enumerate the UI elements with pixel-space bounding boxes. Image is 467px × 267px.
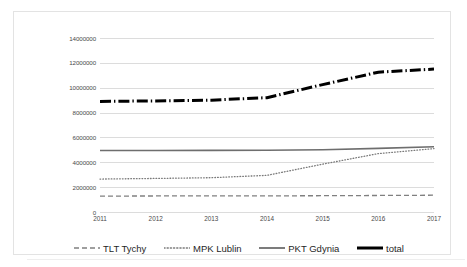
y-tick-label: 6000000 [73,134,96,141]
x-tick-label: 2017 [414,215,454,223]
chart-legend: TLT TychyMPK LublinPKT Gdyniatotal [74,240,404,256]
x-tick-label: 2015 [303,215,343,223]
x-tick-label: 2012 [136,215,176,223]
legend-label: PKT Gdynia [288,243,339,254]
y-tick-label: 4000000 [73,159,96,166]
y-tick-label: 14000000 [69,35,96,42]
thick-line-swatch [357,243,383,253]
dotted-line-swatch [164,243,190,253]
y-axis: 0200000040000006000000800000010000000120… [34,38,96,212]
series-line-total [100,69,434,101]
x-tick-label: 2011 [80,215,120,223]
x-tick-label: 2013 [191,215,231,223]
chart-card: 0200000040000006000000800000010000000120… [13,11,451,255]
dashed-line-swatch [74,243,100,253]
solid-line-swatch [259,243,285,253]
series-lines [100,38,434,212]
legend-divider [27,259,465,260]
series-line-tlt-tychy [100,195,434,196]
legend-item-pkt-gdynia[interactable]: PKT Gdynia [259,243,339,254]
legend-label: TLT Tychy [103,243,146,254]
x-tick-label: 2014 [247,215,287,223]
legend-item-tlt-tychy[interactable]: TLT Tychy [74,243,146,254]
x-tick-label: 2016 [358,215,398,223]
legend-item-total[interactable]: total [357,243,404,254]
x-axis: 2011201220132014201520162017 [100,215,434,227]
legend-label: total [386,243,404,254]
legend-label: MPK Lublin [193,243,242,254]
y-tick-label: 8000000 [73,109,96,116]
y-tick-label: 12000000 [69,59,96,66]
plot-area [100,38,434,212]
y-tick-label: 10000000 [69,84,96,91]
series-line-pkt-gdynia [100,147,434,151]
legend-item-mpk-lublin[interactable]: MPK Lublin [164,243,242,254]
series-line-mpk-lublin [100,149,434,179]
gridline-0 [100,212,434,213]
y-tick-label: 2000000 [73,184,96,191]
